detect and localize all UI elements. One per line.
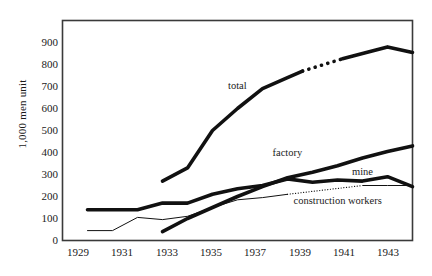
- plot-canvas: [0, 0, 432, 276]
- annotation-factory: factory: [273, 147, 303, 158]
- series-total: [163, 47, 413, 181]
- annotation-construction-workers: construction workers: [294, 195, 382, 206]
- chart-figure: 1,000 men unit 0 100 200 300 400 500 600…: [0, 0, 432, 276]
- annotation-mine: mine: [352, 166, 373, 177]
- annotation-total: total: [228, 80, 247, 91]
- series-factory: [163, 146, 413, 232]
